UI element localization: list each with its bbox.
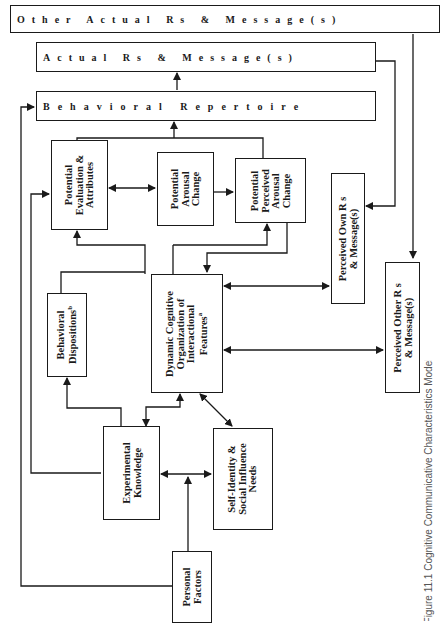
potential-perceived-arousal-change-box: Potential Perceived Arousal Change	[235, 158, 306, 223]
dynamic-cognitive-organization-box: Dynamic Cognitive Organization of Intera…	[151, 274, 223, 393]
footnote-b: b	[65, 306, 73, 310]
behavioral-repertoire-label: Behavioral Repertoire	[43, 101, 306, 112]
evaluation-line-3: Attributes	[85, 155, 96, 215]
actual-rs-messages-box: Actual Rs & Message(s)	[36, 42, 376, 72]
figure-caption: Figure 11.1 Cognitive Communicative Char…	[418, 360, 438, 621]
footnote-a: a	[196, 312, 204, 316]
perceived-own-rs-messages-box: Perceived Own R s & Message(s)	[331, 173, 365, 304]
behavioral-repertoire-box: Behavioral Repertoire	[36, 91, 376, 121]
personal-factors-box: Personal Factors	[172, 551, 212, 623]
self-identity-social-influence-box: Self-Identity & Social Influence Needs	[213, 428, 273, 530]
perceived-other-rs-messages-box: Perceived Other R s & Message(s)	[385, 262, 420, 393]
other-actual-rs-messages-label: Other Actual Rs & Message(s)	[17, 6, 342, 32]
potential-evaluation-attributes-box: Potential Evaluation & Attributes	[51, 140, 108, 230]
other-actual-rs-messages-box: Other Actual Rs & Message(s)	[10, 5, 440, 33]
evaluation-line-2: Evaluation &	[74, 155, 85, 215]
experimental-knowledge-box: Experimental Knowledge	[103, 426, 160, 520]
behavioral-dispositions-box: Behavioral Dispositionsb	[47, 293, 87, 377]
actual-rs-messages-label: Actual Rs & Message(s)	[43, 52, 299, 63]
evaluation-line-1: Potential	[64, 155, 75, 215]
potential-arousal-change-box: Potential Arousal Change	[157, 152, 214, 226]
